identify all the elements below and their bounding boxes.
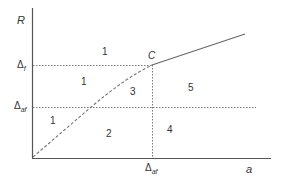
- subscript: af: [21, 106, 27, 113]
- y-axis-label: R: [17, 15, 25, 26]
- point-c-label: C: [148, 51, 155, 61]
- delta-symbol: Δ: [17, 59, 24, 70]
- region-3: 3: [130, 87, 136, 97]
- delta-symbol: Δ: [145, 162, 152, 173]
- region-1-low: 1: [50, 116, 56, 126]
- region-1-top: 1: [102, 47, 108, 57]
- dashed-curve: [33, 65, 152, 157]
- subscript: f: [24, 65, 26, 72]
- region-4: 4: [167, 125, 173, 135]
- region-1-mid: 1: [81, 77, 87, 87]
- x-tick-delta-af: Δaf: [145, 163, 158, 173]
- y-tick-delta-f: Δf: [17, 60, 26, 70]
- diagram-canvas: [0, 0, 284, 184]
- delta-symbol: Δ: [14, 100, 21, 111]
- region-2: 2: [106, 129, 112, 139]
- x-axis-label: a: [246, 164, 252, 175]
- solid-line-from-c: [152, 34, 245, 65]
- subscript: af: [152, 168, 158, 175]
- y-tick-delta-af: Δaf: [14, 101, 27, 111]
- region-5: 5: [188, 83, 194, 93]
